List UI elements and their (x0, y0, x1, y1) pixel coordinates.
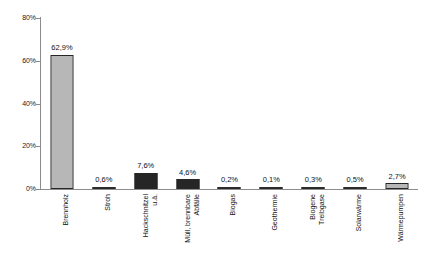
category-label-slot: Stroh (83, 192, 125, 262)
bar-value-label: 0,5% (347, 176, 364, 184)
x-axis-category-label: Wärmepumpen (397, 194, 406, 242)
bar-value-label: 4,6% (179, 169, 196, 177)
bar-value-label: 0,2% (221, 176, 238, 184)
bar-value-label: 0,6% (95, 176, 112, 184)
bar-value-label: 62,9% (51, 44, 72, 52)
bar[interactable] (176, 179, 199, 189)
x-axis-category-label: Brennholz (62, 194, 71, 226)
bar-slot: 62,9% (41, 10, 83, 189)
category-label-line: Brennholz (62, 194, 71, 226)
category-label-line: Geothermie (271, 194, 280, 231)
category-label-line: Treibgase (318, 194, 327, 225)
y-axis-tick-label: 80% (2, 14, 36, 21)
category-label-line: Hackschnitzel (142, 194, 151, 237)
bar[interactable] (50, 55, 73, 189)
category-label-line: Müll, brennbare (184, 194, 193, 243)
bar[interactable] (344, 187, 367, 189)
category-label-line: Solarwärme (355, 194, 364, 231)
y-axis-tick-label-wrap: 20% (0, 142, 36, 150)
bar[interactable] (218, 187, 241, 189)
bar-slot: 2,7% (376, 10, 418, 189)
bar-chart: 0%20%40%60%80% 62,9%0,6%7,6%4,6%0,2%0,1%… (0, 0, 424, 263)
x-axis-category-label: Geothermie (271, 194, 280, 231)
y-axis-tick-label: 0% (2, 185, 36, 192)
category-label-slot: Geothermie (250, 192, 292, 262)
category-label-slot: Biogas (209, 192, 251, 262)
category-label-line: Biogene (309, 194, 318, 225)
y-axis-tick-label-wrap: 40% (0, 100, 36, 108)
category-label-slot: Müll, brennbareAbfälle (167, 192, 209, 262)
bar[interactable] (302, 187, 325, 189)
y-axis-tick-label: 40% (2, 100, 36, 107)
category-label-line: Wärmepumpen (397, 194, 406, 242)
bar-slot: 7,6% (125, 10, 167, 189)
x-axis-category-label: Stroh (104, 194, 113, 211)
x-axis-category-label: Solarwärme (355, 194, 364, 231)
y-axis-tick-label-wrap: 60% (0, 57, 36, 65)
x-axis-category-label: Biogas (229, 194, 238, 215)
y-axis-tick-label: 60% (2, 57, 36, 64)
plot-area: 62,9%0,6%7,6%4,6%0,2%0,1%0,3%0,5%2,7% (41, 10, 418, 189)
category-label-line: Stroh (104, 194, 113, 211)
bar[interactable] (134, 173, 157, 189)
category-label-slot: Hackschnitzelu.ä. (125, 192, 167, 262)
category-label-line: Abfälle (192, 194, 201, 243)
x-axis-category-label: BiogeneTreibgase (309, 194, 326, 225)
category-label-slot: Wärmepumpen (376, 192, 418, 262)
category-label-slot: Brennholz (41, 192, 83, 262)
bar-slot: 0,2% (209, 10, 251, 189)
bar-value-label: 0,1% (263, 176, 280, 184)
bar-slot: 0,1% (250, 10, 292, 189)
category-label-line: u.ä. (150, 194, 159, 237)
bar-slot: 4,6% (167, 10, 209, 189)
category-label-line: Biogas (229, 194, 238, 215)
y-axis-tick-label-wrap: 0% (0, 185, 36, 193)
bar[interactable] (92, 187, 115, 189)
bar-value-label: 7,6% (137, 162, 154, 170)
bar-slot: 0,3% (292, 10, 334, 189)
category-label-slot: BiogeneTreibgase (292, 192, 334, 262)
bar-slot: 0,6% (83, 10, 125, 189)
bar[interactable] (386, 183, 409, 189)
bar[interactable] (260, 187, 283, 189)
x-axis-category-label: Müll, brennbareAbfälle (184, 194, 201, 243)
y-axis-tick-label-wrap: 80% (0, 14, 36, 22)
bar-value-label: 2,7% (388, 173, 405, 181)
bar-value-label: 0,3% (305, 176, 322, 184)
category-label-slot: Solarwärme (334, 192, 376, 262)
y-axis-tick-label: 20% (2, 142, 36, 149)
x-axis-line (40, 189, 418, 190)
bar-slot: 0,5% (334, 10, 376, 189)
x-axis-category-label: Hackschnitzelu.ä. (142, 194, 159, 237)
